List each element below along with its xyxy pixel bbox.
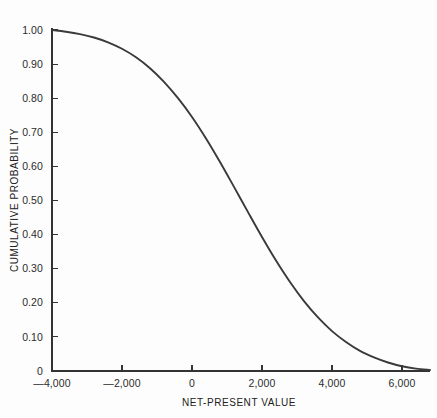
y-tick-label: 0.70	[22, 126, 43, 138]
cumulative-probability-chart: 00.100.200.300.400.500.600.700.800.901.0…	[0, 0, 437, 418]
curve-group	[52, 30, 430, 370]
x-tick-label: 4,000	[319, 377, 346, 389]
y-tick-label: 0.60	[22, 160, 43, 172]
y-tick-label: 0.50	[22, 194, 43, 206]
x-tick-label: —4,000	[33, 377, 70, 389]
y-tick-label: 0.80	[22, 92, 43, 104]
y-tick-label: 0.90	[22, 58, 43, 70]
y-axis-tick-labels: 00.100.200.300.400.500.600.700.800.901.0…	[22, 24, 43, 377]
x-tick-label: 2,000	[249, 377, 276, 389]
chart-container: 00.100.200.300.400.500.600.700.800.901.0…	[0, 0, 437, 418]
y-tick-label: 0.30	[22, 262, 43, 274]
x-tick-label: 0	[189, 377, 195, 389]
x-tick-label: 6,000	[389, 377, 416, 389]
x-tick-label: —2,000	[103, 377, 140, 389]
cumulative-probability-curve	[52, 30, 430, 370]
y-axis-title: CUMULATIVE PROBABILITY	[9, 128, 20, 272]
y-axis-tick-marks	[52, 30, 58, 337]
y-tick-label: 0.20	[22, 296, 43, 308]
x-axis-tick-labels: —4,000—2,00002,0004,0006,000	[33, 377, 415, 389]
x-axis-title: NET-PRESENT VALUE	[182, 397, 296, 408]
y-tick-label: 1.00	[22, 24, 43, 36]
y-tick-label: 0	[37, 365, 43, 377]
x-axis-tick-marks	[122, 365, 402, 371]
y-tick-label: 0.10	[22, 331, 43, 343]
y-tick-label: 0.40	[22, 228, 43, 240]
